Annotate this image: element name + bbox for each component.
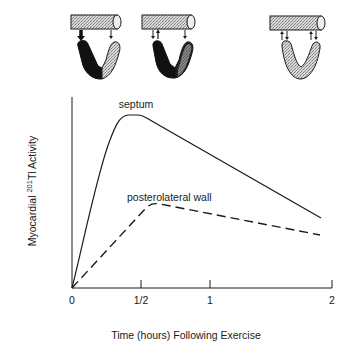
arrow-up-icon: [309, 31, 313, 40]
myocardium-u-icon: [153, 41, 193, 78]
posterolateral-curve: [72, 204, 320, 288]
arrow-up-icon: [156, 29, 160, 39]
y-label-suffix: Tl Activity: [26, 135, 38, 180]
myocardium-u-icon: [282, 41, 320, 79]
x-tick-label-half: 1/2: [134, 294, 149, 306]
vessel-cylinder-icon: [71, 15, 121, 29]
arrow-down-icon: [183, 30, 187, 39]
thallium-activity-figure: septum posterolateral wall 0 1/2 1 2 Tim…: [0, 0, 348, 345]
vessel-cylinder-icon: [270, 16, 325, 30]
arrow-down-icon: [77, 30, 85, 41]
x-tick-label-0: 0: [69, 294, 75, 306]
arrow-down-icon: [151, 30, 155, 39]
septum-label: septum: [119, 98, 154, 110]
icon-half-hour: [142, 15, 195, 78]
vessel-cylinder-icon: [142, 15, 195, 29]
y-axis-label: Myocardial 201Tl Activity: [25, 135, 38, 246]
posterolateral-label: posterolateral wall: [127, 191, 212, 203]
arrow-down-icon: [314, 31, 318, 40]
x-axis-label: Time (hours) Following Exercise: [111, 329, 261, 341]
icon-two-hours: [270, 16, 325, 79]
arrow-down-icon: [285, 31, 289, 40]
y-label-prefix: Myocardial: [26, 193, 38, 247]
x-tick-label-2: 2: [329, 294, 335, 306]
icon-early-uptake: [71, 15, 121, 79]
y-label-superscript: 201: [25, 180, 34, 193]
myocardium-u-icon: [78, 40, 120, 79]
x-tick-label-1: 1: [207, 294, 213, 306]
arrow-up-icon: [280, 31, 284, 40]
arrow-down-icon: [109, 30, 113, 39]
